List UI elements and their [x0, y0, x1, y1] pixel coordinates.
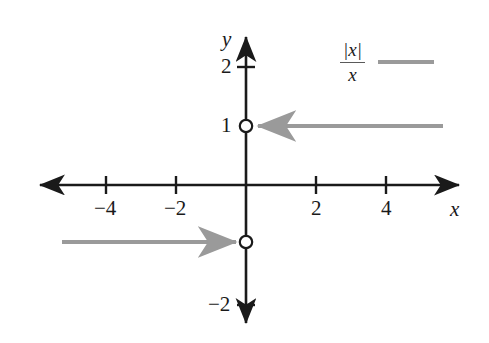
fraction-bar — [340, 62, 365, 63]
function-curve-positive-branch — [240, 120, 443, 132]
x-axis-label: x — [450, 199, 459, 220]
y-tick-label-2: 2 — [221, 56, 232, 77]
y-axis-label: y — [222, 29, 231, 50]
function-curve-negative-branch — [62, 236, 252, 248]
x-tick-label--4: −4 — [94, 198, 116, 219]
legend-line-sample — [378, 60, 434, 64]
legend-formula: |x| x — [340, 40, 365, 85]
x-tick-label--2: −2 — [164, 198, 186, 219]
legend: |x| x — [340, 40, 434, 85]
y-axis — [237, 37, 255, 323]
y-tick-label--2: −2 — [208, 294, 230, 315]
x-tick-label-4: 4 — [381, 198, 392, 219]
open-circle-0-plus-1 — [240, 120, 252, 132]
legend-formula-denominator: x — [345, 65, 359, 85]
legend-formula-numerator: |x| — [340, 40, 365, 60]
y-tick-label-1: 1 — [221, 115, 232, 136]
x-axis — [40, 176, 459, 194]
function-graph-figure: −4 −2 2 4 2 1 −2 x y |x| x — [0, 0, 489, 343]
open-circle-0-minus-1 — [240, 236, 252, 248]
x-tick-label-2: 2 — [311, 198, 322, 219]
